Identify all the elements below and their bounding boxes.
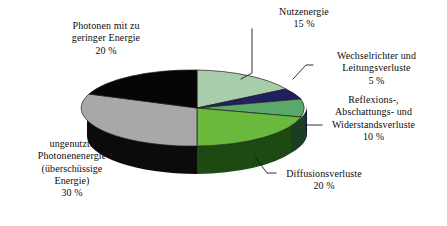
label-wechselrichter-line1: Wechselrichter und [306,50,447,62]
label-reflexion-line1: Reflexions-, [300,94,447,106]
label-ungenutzt-line4: Energie) [8,175,136,187]
label-wechselrichter-line2: Leitungsverluste [306,62,447,74]
label-reflexion: Reflexions-, Abschattungs- und Widerstan… [300,94,447,143]
leader-line-nutzenergie [241,29,252,79]
label-wechselrichter: Wechselrichter und Leitungsverluste 5 % [306,50,447,87]
label-ungenutzt-line3: (überschüssige [8,163,136,175]
label-diffusion-percent: 20 % [258,180,390,192]
label-diffusion-line1: Diffusionsverluste [258,168,390,180]
label-photonen-line1: Photonen mit zu [38,20,174,32]
label-nutzenergie: Nutzenergie 15 % [243,6,365,31]
pie-top-face [81,70,304,146]
label-nutzenergie-percent: 15 % [243,18,365,30]
label-ungenutzt-percent: 30 % [8,187,136,199]
label-reflexion-line2: Abschattungs- und [300,106,447,118]
label-photonen-line2: geringer Energie [38,32,174,44]
label-ungenutzt-line2: Photonenenergie [8,150,136,162]
label-reflexion-line3: Widerstandsverluste [300,119,447,131]
label-nutzenergie-line1: Nutzenergie [243,6,365,18]
label-wechselrichter-percent: 5 % [306,75,447,87]
label-ungenutzte-photonenenergie: ungenutzte Photonenenergie (überschüssig… [8,138,136,199]
label-ungenutzt-line1: ungenutzte [8,138,136,150]
label-photonen-geringe-energie: Photonen mit zu geringer Energie 20 % [38,20,174,57]
pie-chart-figure: Nutzenergie 15 % Wechselrichter und Leit… [0,0,447,226]
label-photonen-percent: 20 % [38,45,174,57]
label-reflexion-percent: 10 % [300,131,447,143]
label-diffusion: Diffusionsverluste 20 % [258,168,390,193]
